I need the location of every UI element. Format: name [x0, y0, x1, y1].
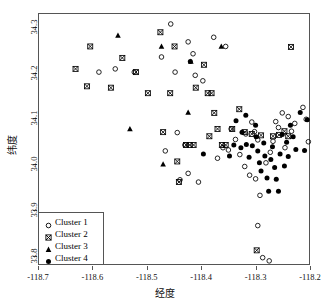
data-point-4: [255, 148, 260, 153]
data-point-4: [240, 130, 245, 135]
legend-item: Cluster 1: [42, 216, 101, 228]
data-point-1: [267, 259, 272, 264]
y-axis-tick-label: 34.0: [29, 144, 39, 184]
data-point-1: [280, 111, 285, 116]
data-point-2: [237, 107, 242, 112]
data-point-1: [276, 125, 281, 130]
legend-label: Cluster 4: [55, 253, 88, 264]
data-point-2: [254, 248, 259, 253]
data-point-1: [258, 193, 263, 198]
data-point-4: [201, 152, 206, 157]
y-axis-title: 纬度: [4, 135, 19, 155]
data-point-4: [247, 155, 252, 160]
data-point-4: [243, 113, 248, 118]
data-point-2: [193, 85, 198, 90]
data-point-1: [191, 51, 196, 56]
data-point-4: [288, 123, 293, 128]
data-point-4: [250, 143, 255, 148]
data-point-2: [175, 159, 180, 164]
data-point-4: [268, 157, 273, 162]
legend-label: Cluster 3: [55, 241, 88, 252]
x-axis-tick-label: -118.2: [290, 272, 329, 282]
crossed-square-icon: [42, 229, 55, 240]
data-point-2: [209, 91, 214, 96]
data-point-3: [185, 109, 191, 114]
data-point-2: [286, 134, 291, 139]
data-point-1: [289, 129, 294, 134]
legend-item: Cluster 3: [42, 240, 101, 252]
legend-item: Cluster 4: [42, 252, 101, 264]
legend-label: Cluster 1: [55, 217, 88, 228]
data-point-4: [259, 169, 264, 174]
filled-circle-icon: [42, 253, 55, 264]
data-point-4: [298, 110, 303, 115]
x-axis-tick: [310, 266, 311, 270]
data-point-2: [161, 130, 166, 135]
data-point-2: [172, 44, 177, 49]
data-point-3: [127, 126, 133, 131]
data-point-1: [271, 139, 276, 144]
data-point-1: [215, 156, 220, 161]
data-point-2: [73, 66, 78, 71]
data-point-2: [191, 142, 196, 147]
y-axis-tick-label: 34.2: [29, 53, 39, 93]
data-point-4: [188, 59, 193, 64]
data-point-4: [265, 175, 270, 180]
data-point-2: [212, 110, 217, 115]
data-point-1: [233, 137, 238, 142]
data-point-1: [173, 70, 178, 75]
data-point-2: [145, 91, 150, 96]
data-point-2: [288, 44, 293, 49]
data-point-4: [227, 153, 232, 158]
x-axis-tick: [92, 266, 93, 270]
x-axis-tick-label: -118.6: [72, 272, 112, 282]
data-point-2: [223, 142, 228, 147]
data-point-4: [272, 165, 277, 170]
data-point-2: [259, 133, 264, 138]
open-circle-icon: [42, 217, 55, 228]
data-point-2: [108, 85, 113, 90]
data-point-4: [257, 160, 262, 165]
data-point-2: [215, 126, 220, 131]
data-point-4: [274, 177, 279, 182]
data-point-4: [278, 152, 283, 157]
y-axis-tick-label: 34.3: [29, 7, 39, 47]
data-point-2: [271, 134, 276, 139]
x-axis-title: 经度: [0, 285, 329, 300]
x-axis-tick: [201, 266, 202, 270]
data-point-1: [168, 22, 173, 27]
data-point-1: [196, 180, 201, 185]
data-point-3: [115, 32, 121, 37]
data-point-2: [88, 44, 93, 49]
data-point-4: [266, 189, 271, 194]
data-point-1: [249, 120, 254, 125]
data-point-1: [186, 40, 191, 45]
data-point-1: [283, 145, 288, 150]
data-point-4: [234, 118, 239, 123]
data-point-3: [160, 161, 166, 166]
data-point-4: [284, 140, 289, 145]
data-point-1: [253, 177, 258, 182]
data-point-4: [231, 142, 236, 147]
data-point-1: [201, 79, 206, 84]
data-point-1: [223, 44, 228, 49]
data-point-2: [201, 62, 206, 67]
data-point-4: [244, 142, 249, 147]
data-point-1: [163, 149, 168, 154]
data-point-1: [273, 119, 278, 124]
data-point-1: [286, 114, 291, 119]
data-point-4: [254, 134, 259, 139]
data-point-4: [293, 147, 298, 152]
data-point-4: [253, 123, 258, 128]
data-point-2: [158, 30, 163, 35]
data-point-4: [302, 148, 307, 153]
data-point-1: [97, 70, 102, 75]
legend-label: Cluster 2: [55, 229, 88, 240]
data-point-1: [226, 148, 231, 153]
filled-triangle-icon: [42, 241, 55, 252]
data-point-1: [186, 171, 191, 176]
data-point-3: [159, 43, 165, 48]
data-point-4: [261, 141, 266, 146]
data-point-4: [291, 134, 296, 139]
data-point-1: [247, 173, 252, 178]
